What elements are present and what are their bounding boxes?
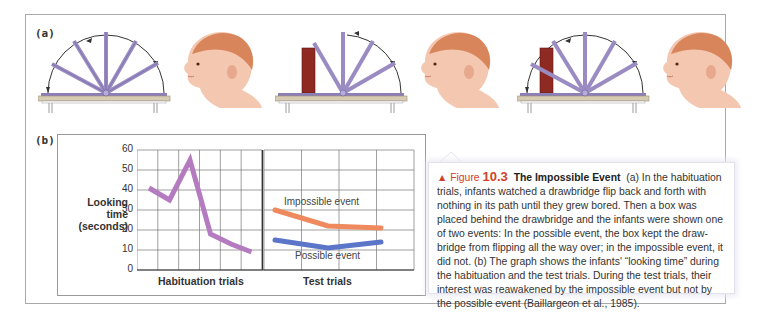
caption-title: The Impossible Event: [514, 172, 621, 183]
infant-head: [663, 32, 741, 108]
infant-head: [421, 32, 499, 108]
y-tick-label: 30: [117, 203, 133, 214]
x-label-test: Test trials: [303, 275, 352, 287]
infant-head: [184, 32, 262, 108]
triangle-icon: ▲: [437, 172, 447, 183]
y-tick-label: 40: [117, 183, 133, 194]
caption-body: (a) In the habituation trials, infants w…: [437, 172, 723, 309]
y-tick-label: 60: [117, 143, 133, 154]
impossible-event-label: Impossible event: [284, 196, 359, 207]
drawbridge-apparatus: [517, 32, 649, 113]
impossible-event-scene: [517, 28, 747, 116]
possible-event-label: Possible event: [295, 250, 360, 261]
y-tick-label: 10: [117, 243, 133, 254]
panel-b-label: (b): [35, 134, 55, 147]
drawbridge-apparatus: [38, 32, 170, 113]
y-tick-label: 20: [117, 223, 133, 234]
y-tick-label: 50: [117, 163, 133, 174]
drawbridge-apparatus: [275, 31, 407, 113]
box: [302, 48, 315, 93]
possible-event-scene: [275, 28, 505, 116]
figure-caption: ▲ Figure 10.3 The Impossible Event (a) I…: [428, 162, 735, 294]
figure-number: ▲ Figure 10.3: [437, 172, 508, 183]
habituation-scene: [38, 28, 268, 116]
y-tick-label: 0: [117, 263, 133, 274]
x-label-habituation: Habituation trials: [158, 275, 244, 287]
looking-time-chart: [137, 148, 417, 272]
